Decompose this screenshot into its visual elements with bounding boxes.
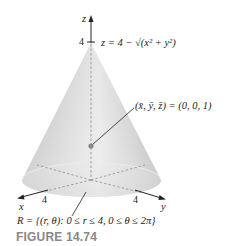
y-axis: [135, 190, 166, 200]
figure-14-74: z 4 z = 4 − √(x² + y²) (x̄, ȳ, z̄) = (0,…: [0, 0, 234, 246]
y-axis-label: y: [161, 201, 166, 212]
z-axis: [87, 15, 95, 43]
figure-caption: FIGURE 14.74: [16, 230, 97, 244]
y-tick-label: 4: [133, 194, 138, 205]
surface-equation: z = 4 − √(x² + y²): [101, 37, 176, 48]
x-tick-label: 4: [42, 194, 47, 205]
y-axis-arrow-icon: [159, 195, 167, 200]
centroid-point-icon: [88, 143, 93, 148]
centroid-label: (x̄, ȳ, z̄) = (0, 0, 1): [135, 100, 211, 111]
z-tick-label: 4: [79, 36, 84, 47]
x-axis-arrow-icon: [17, 195, 25, 200]
z-axis-label: z: [82, 13, 86, 24]
cone-surface: [22, 43, 161, 197]
region-label: R = {(r, θ): 0 ≤ r ≤ 4, 0 ≤ θ ≤ 2π}: [17, 215, 155, 226]
z-axis-arrow-icon: [89, 15, 94, 22]
x-axis-label: x: [19, 201, 24, 212]
